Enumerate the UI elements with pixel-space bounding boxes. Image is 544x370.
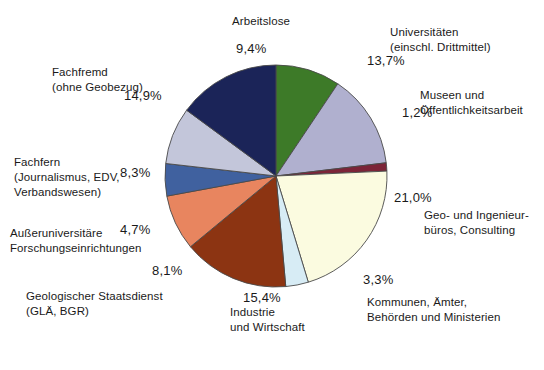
- slice-value-kommunen: 3,3%: [363, 272, 393, 287]
- slice-value-ausseruniversitaere: 4,7%: [120, 222, 150, 237]
- slice-label-fachfremd: Fachfremd (ohne Geobezug): [52, 65, 184, 95]
- slice-label-geologischer-staatsdienst: Geologischer Staatsdienst (GLÄ, BGR): [26, 289, 196, 319]
- slice-label-industrie: Industrie und Wirtschaft: [230, 305, 350, 335]
- slice-value-fachfern: 8,3%: [120, 165, 150, 180]
- slice-label-universitaeten: Universitäten (einschl. Drittmittel): [390, 25, 530, 55]
- slice-label-kommunen: Kommunen, Ämter, Behörden und Ministerie…: [367, 295, 543, 325]
- slice-value-geo-ingenieurbueros: 21,0%: [394, 190, 432, 205]
- pie-slices-svg: [164, 64, 388, 288]
- slice-value-museen: 1,2%: [402, 105, 432, 120]
- slice-label-museen: Museen und Öffentlichkeitsarbeit: [420, 88, 544, 118]
- pie-chart-figure: Arbeitslose Universitäten (einschl. Drit…: [0, 0, 544, 370]
- slice-value-industrie: 15,4%: [243, 290, 281, 305]
- slice-label-arbeitslose: Arbeitslose: [206, 14, 316, 29]
- slice-value-geologischer-staatsdienst: 8,1%: [152, 263, 182, 278]
- pie-chart-graphic: [164, 64, 388, 288]
- slice-value-universitaeten: 13,7%: [367, 53, 405, 68]
- slice-label-geo-ingenieurbueros: Geo- und Ingenieur- büros, Consulting: [424, 208, 542, 238]
- slice-value-fachfremd: 14,9%: [124, 88, 162, 103]
- slice-value-arbeitslose: 9,4%: [236, 41, 266, 56]
